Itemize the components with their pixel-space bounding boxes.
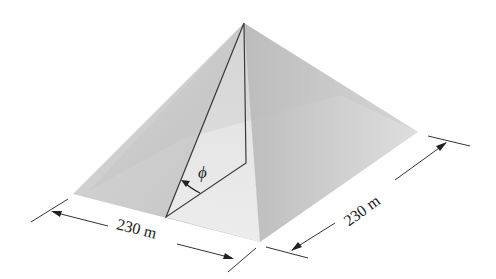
pyramid-diagram: ϕ 230 m 230 m	[0, 0, 496, 279]
right-arrow-bottom-icon	[291, 242, 302, 251]
front-extension-right	[228, 248, 256, 272]
right-dimension-label: 230 m	[340, 191, 383, 229]
right-extension-bottom	[266, 247, 308, 258]
right-extension-top	[428, 136, 470, 146]
pyramid-figure: ϕ 230 m 230 m	[0, 0, 496, 279]
front-dimension-label: 230 m	[115, 215, 159, 241]
angle-label: ϕ	[198, 163, 207, 182]
front-arrow-right-icon	[223, 253, 234, 259]
front-extension-left	[31, 199, 68, 222]
front-arrow-left-icon	[51, 211, 62, 217]
front-dim-line-a	[53, 212, 108, 226]
front-dim-line-b	[177, 244, 232, 258]
